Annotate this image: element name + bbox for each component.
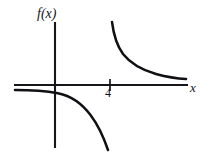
y-axis-label: f(x): [37, 7, 56, 21]
curve-lower-left-branch: [15, 90, 108, 150]
graph-canvas: [0, 0, 204, 163]
x-tick-label-4: 4: [105, 87, 111, 99]
curve-upper-right-branch: [112, 22, 186, 79]
function-graph-figure: f(x) x 4: [0, 0, 204, 163]
x-axis-label: x: [190, 81, 196, 94]
